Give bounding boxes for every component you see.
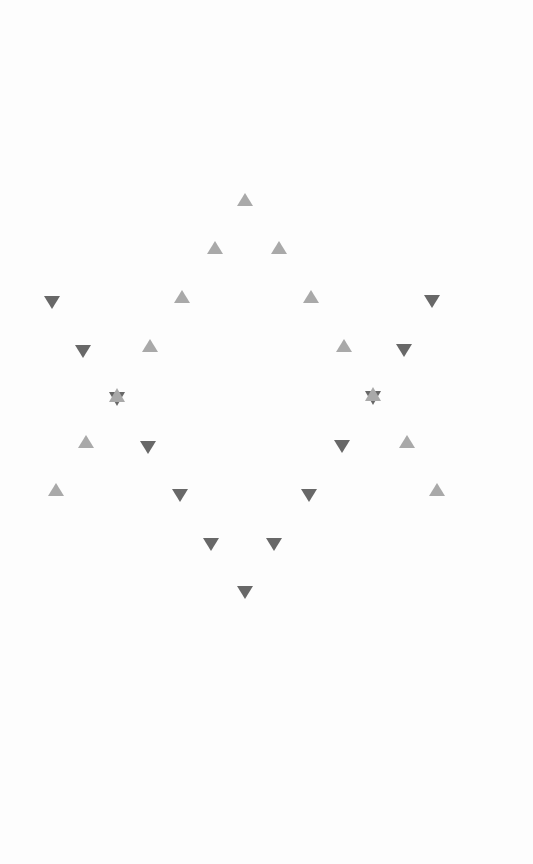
down-triangle-icon: [301, 489, 317, 502]
up-triangle-icon: [336, 339, 352, 352]
down-triangle-icon: [140, 441, 156, 454]
up-triangle-icon: [48, 483, 64, 496]
down-triangle-icon: [172, 489, 188, 502]
up-triangle-icon: [174, 290, 190, 303]
up-triangle-icon: [271, 241, 287, 254]
down-triangle-icon: [334, 440, 350, 453]
down-triangle-icon: [266, 538, 282, 551]
down-triangle-icon: [396, 344, 412, 357]
figure-canvas: [0, 0, 533, 864]
star-icon: [363, 385, 383, 407]
up-triangle-icon: [429, 483, 445, 496]
down-triangle-icon: [75, 345, 91, 358]
down-triangle-icon: [424, 295, 440, 308]
up-triangle-icon: [207, 241, 223, 254]
down-triangle-icon: [237, 586, 253, 599]
up-triangle-icon: [399, 435, 415, 448]
up-triangle-icon: [237, 193, 253, 206]
up-triangle-icon: [303, 290, 319, 303]
up-triangle-icon: [78, 435, 94, 448]
up-triangle-icon: [142, 339, 158, 352]
down-triangle-icon: [203, 538, 219, 551]
star-icon: [107, 386, 127, 408]
down-triangle-icon: [44, 296, 60, 309]
